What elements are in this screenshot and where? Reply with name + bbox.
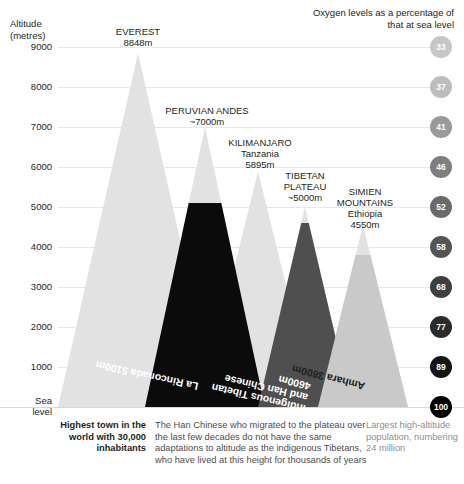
peak-label-kilimanjaro: KILIMANJARO Tanzania 5895m bbox=[180, 137, 340, 170]
caption-han-chinese: The Han Chinese who migrated to the plat… bbox=[155, 420, 370, 466]
caption-largest-population: Largest high-altitude population, number… bbox=[366, 420, 461, 455]
peak-label-everest: EVEREST 8848m bbox=[58, 26, 218, 48]
infographic-root: Altitude (metres) 9000800070006000500040… bbox=[0, 0, 464, 484]
caption-highest-town: Highest town in the world with 30,000 in… bbox=[46, 420, 146, 455]
peak-label-peruvian_andes: PERUVIAN ANDES ~7000m bbox=[127, 105, 287, 127]
mountain-chart: La Rinconada 5100mIndigenous Tibetanand … bbox=[0, 0, 464, 484]
peak-label-simien_mountains: SIMIEN MOUNTAINS Ethiopia 4550m bbox=[285, 186, 445, 230]
